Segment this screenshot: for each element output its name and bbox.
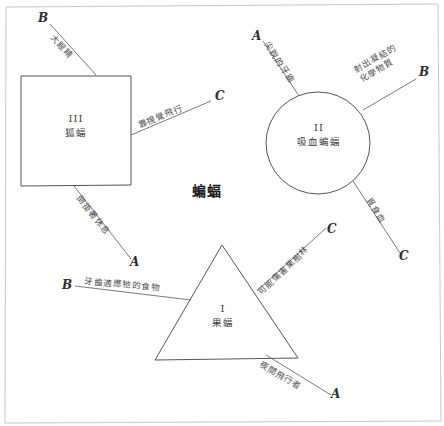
leader-circle-b [363,79,416,110]
shape-roman-square: III [46,113,106,125]
endcap-square-a: A [130,256,139,270]
endcap-circle-c: C [399,250,409,264]
shape-roman-circle: II [288,122,350,134]
shape-label-triangle: I 果蝠 [196,303,250,328]
endcap-circle-a: A [252,30,261,44]
shape-roman-triangle: I [196,303,250,315]
shape-label-square: III 狐蝠 [46,113,106,138]
endcap-triangle-b: B [62,279,72,293]
endcap-square-c: C [215,90,225,104]
page-title: 蝙蝠 [192,180,222,200]
endcap-square-b: B [38,12,48,26]
endcap-triangle-a: A [331,388,340,402]
shape-label-circle: II 吸血蝙蝠 [288,122,350,147]
endcap-circle-b: B [419,66,429,80]
shape-name-square: 狐蝠 [46,128,106,139]
endcap-triangle-c: C [327,223,337,237]
shape-name-circle: 吸血蝙蝠 [288,137,350,148]
shape-name-triangle: 果蝠 [196,318,250,329]
diagram-canvas: 蝙蝠 III 狐蝠 II 吸血蝙蝠 I 果蝠 B 大眼睛 C 靠視覺飛行 A 倒… [0,0,444,426]
